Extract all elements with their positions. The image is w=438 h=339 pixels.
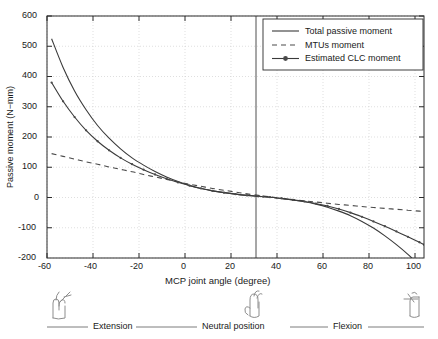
- series-clc-marker-point: [262, 195, 264, 197]
- series-clc-marker-point: [246, 194, 248, 196]
- series-clc-marker-point: [142, 169, 144, 171]
- x-tick-40: 40: [271, 261, 281, 271]
- series-clc-marker-point: [315, 202, 317, 204]
- series-clc-marker-point: [407, 236, 409, 238]
- series-clc-marker-point: [85, 129, 87, 131]
- series-clc-marker-point: [349, 211, 351, 213]
- series-clc-marker-point: [338, 208, 340, 210]
- x-tick-100: 100: [406, 261, 421, 271]
- x-tick-neg20: -20: [130, 261, 143, 271]
- x-tick-0: 0: [181, 261, 186, 271]
- series-clc-marker-point: [234, 193, 236, 195]
- y-tick-500: 500: [22, 40, 37, 50]
- legend-label-clc: Estimated CLC moment: [305, 53, 401, 63]
- series-clc-marker-point: [257, 195, 259, 197]
- y-tick-200: 200: [22, 131, 37, 141]
- series-clc-marker-point: [62, 100, 64, 102]
- hand-neutral-icon: [245, 291, 262, 318]
- series-clc-marker-point: [188, 185, 190, 187]
- series-clc-marker-point: [303, 200, 305, 202]
- band-label-flexion: Flexion: [330, 321, 365, 331]
- series-clc-marker-point: [326, 205, 328, 207]
- series-clc-marker-point: [119, 157, 121, 159]
- y-tick-600: 600: [22, 10, 37, 20]
- y-tick-neg200: -200: [18, 252, 36, 262]
- series-clc-marker-point: [108, 149, 110, 151]
- x-tick-20: 20: [225, 261, 235, 271]
- legend-swatch-clc-marker: [283, 56, 288, 61]
- y-tick-0: 0: [34, 192, 39, 202]
- series-clc-marker-point: [372, 220, 374, 222]
- series-clc-marker-point: [177, 181, 179, 183]
- band-label-extension: Extension: [90, 321, 136, 331]
- series-clc-marker-point: [395, 230, 397, 232]
- legend-label-total: Total passive moment: [305, 26, 392, 36]
- x-tick-neg40: -40: [84, 261, 97, 271]
- series-clc-marker-point: [200, 187, 202, 189]
- y-tick-neg100: -100: [18, 222, 36, 232]
- series-clc-marker-point: [154, 173, 156, 175]
- series-clc-marker-point: [269, 196, 271, 198]
- series-clc-marker-point: [292, 199, 294, 201]
- hand-extension-icon: [53, 292, 71, 319]
- y-tick-300: 300: [22, 101, 37, 111]
- band-label-neutral: Neutral position: [199, 321, 268, 331]
- series-clc-marker-point: [223, 192, 225, 194]
- x-tick-60: 60: [317, 261, 327, 271]
- y-tick-400: 400: [22, 70, 37, 80]
- series-clc-marker-point: [361, 216, 363, 218]
- hand-flexion-icon: [404, 292, 419, 317]
- chart-canvas: Passive moment (N−mm): [0, 0, 438, 339]
- series-clc-marker-point: [418, 241, 420, 243]
- series-clc-marker-point: [131, 163, 133, 165]
- chart-figure: Passive moment (N−mm): [0, 0, 438, 339]
- series-clc-marker-point: [50, 81, 52, 83]
- x-axis-title: MCP joint angle (degree): [165, 275, 270, 286]
- x-tick-neg60: -60: [38, 261, 51, 271]
- legend-label-mtus: MTUs moment: [305, 40, 364, 50]
- series-clc-marker-point: [211, 190, 213, 192]
- series-clc-marker-point: [165, 178, 167, 180]
- x-tick-80: 80: [363, 261, 373, 271]
- series-clc-marker-point: [96, 140, 98, 142]
- y-axis-title: Passive moment (N−mm): [5, 86, 15, 188]
- series-clc-marker-point: [73, 116, 75, 118]
- series-clc-marker-point: [384, 225, 386, 227]
- series-clc-marker-point: [280, 197, 282, 199]
- y-tick-100: 100: [22, 161, 37, 171]
